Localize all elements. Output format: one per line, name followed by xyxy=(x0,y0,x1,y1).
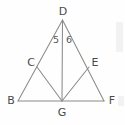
vertex-label-g: G xyxy=(58,107,67,118)
angle-label-6: 6 xyxy=(66,35,72,45)
angle-label-5: 5 xyxy=(53,35,59,45)
vertex-label-f: F xyxy=(109,95,115,106)
vertex-label-b: B xyxy=(7,95,15,106)
segment-bd xyxy=(18,20,63,101)
geometry-figure: DCEBGF56 xyxy=(0,0,125,125)
segment-eg xyxy=(62,67,89,101)
vertex-label-c: C xyxy=(27,57,35,68)
segment-dg xyxy=(62,20,63,101)
vertex-label-d: D xyxy=(59,6,67,17)
segment-cg xyxy=(37,67,62,101)
vertex-label-e: E xyxy=(92,57,99,68)
